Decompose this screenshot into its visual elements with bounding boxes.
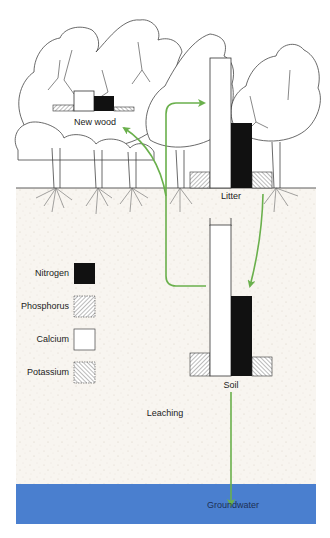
legend-swatch-nitrogen <box>74 263 95 284</box>
legend-swatch-phosphorus <box>74 296 95 317</box>
label-soil: Soil <box>223 380 238 390</box>
litter-calcium <box>210 58 231 188</box>
legend-swatch-calcium <box>74 329 95 350</box>
new-wood-calcium <box>74 91 94 111</box>
litter-nitrogen <box>231 123 252 188</box>
label-litter: Litter <box>221 191 241 201</box>
legend-label-phosphorus: Phosphorus <box>21 301 69 311</box>
legend-swatch-potassium <box>74 362 95 383</box>
soil-calcium <box>210 225 231 376</box>
groundwater-band <box>16 484 316 524</box>
legend-label-nitrogen: Nitrogen <box>35 268 69 278</box>
label-new-wood: New wood <box>74 117 116 127</box>
legend-label-calcium: Calcium <box>36 334 69 344</box>
tree-canopy <box>15 20 320 160</box>
soil-nitrogen <box>231 296 252 376</box>
new-wood-phosphorus <box>53 105 74 111</box>
new-wood-potassium <box>114 107 134 111</box>
legend-label-potassium: Potassium <box>27 367 69 377</box>
litter-potassium <box>252 172 272 188</box>
soil-potassium <box>252 357 272 376</box>
litter-phosphorus <box>190 172 210 188</box>
new-wood-nitrogen <box>94 96 114 111</box>
label-leaching: Leaching <box>147 408 184 418</box>
soil-phosphorus <box>190 353 210 376</box>
label-groundwater: Groundwater <box>207 500 259 510</box>
